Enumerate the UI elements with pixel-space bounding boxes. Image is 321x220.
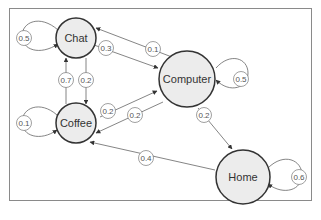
edge-label-computer-home: 0.2 [198,111,210,120]
node-computer-label: Computer [163,73,212,85]
edge-label-computer-computer: 0.5 [235,75,247,84]
edge-label-home-home: 0.6 [293,173,305,182]
edge-label-chat-computer: 0.3 [100,44,112,53]
edge-label-chat-chat: 0.5 [18,34,30,43]
edge-label-chat-coffee: 0.2 [80,76,92,85]
edge-label-home-coffee: 0.4 [140,154,152,163]
node-home-label: Home [228,171,257,183]
edge-label-computer-chat: 0.1 [147,45,159,54]
markov-chain-diagram: Chat Coffee Computer Home 0.5 0.3 0.1 0.… [0,0,321,220]
edge-label-coffee-computer: 0.2 [102,107,114,116]
node-chat: Chat [56,18,96,58]
edge-label-coffee-coffee: 0.1 [18,119,30,128]
node-computer: Computer [159,51,215,107]
edge-label-computer-coffee: 0.2 [129,111,141,120]
node-coffee: Coffee [56,103,96,143]
node-home: Home [216,150,270,204]
node-chat-label: Chat [64,32,87,44]
edge-label-coffee-chat: 0.7 [60,76,72,85]
node-coffee-label: Coffee [60,117,92,129]
